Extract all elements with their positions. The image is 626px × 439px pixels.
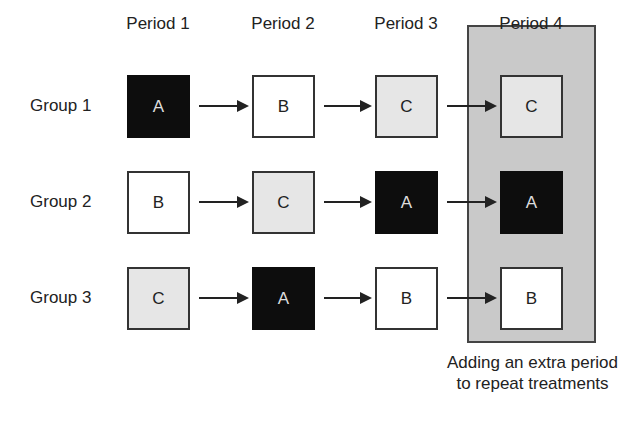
treatment-label: A <box>401 193 412 213</box>
treatment-box: C <box>375 75 438 138</box>
treatment-box: C <box>500 75 563 138</box>
group-label: Group 2 <box>30 192 91 212</box>
arrow-right-icon <box>447 292 497 304</box>
arrow-right-icon <box>324 196 372 208</box>
treatment-label: A <box>278 289 289 309</box>
period-header-2: Period 2 <box>233 14 333 34</box>
arrow-right-icon <box>447 100 497 112</box>
treatment-box: A <box>375 171 438 234</box>
treatment-label: C <box>525 97 537 117</box>
treatment-label: C <box>277 193 289 213</box>
treatment-label: B <box>526 289 537 309</box>
treatment-box: A <box>252 267 315 330</box>
arrow-right-icon <box>199 100 249 112</box>
treatment-box: C <box>252 171 315 234</box>
treatment-box: A <box>127 75 190 138</box>
arrow-right-icon <box>199 196 249 208</box>
treatment-box: B <box>500 267 563 330</box>
treatment-label: C <box>152 289 164 309</box>
treatment-box: B <box>375 267 438 330</box>
period-header-3: Period 3 <box>356 14 456 34</box>
period-header-4: Period 4 <box>481 14 581 34</box>
group-label: Group 1 <box>30 96 91 116</box>
treatment-label: B <box>278 97 289 117</box>
arrow-right-icon <box>199 292 249 304</box>
treatment-label: C <box>400 97 412 117</box>
treatment-box: B <box>127 171 190 234</box>
treatment-label: A <box>526 193 537 213</box>
arrow-right-icon <box>324 292 372 304</box>
period-header-1: Period 1 <box>108 14 208 34</box>
treatment-label: B <box>153 193 164 213</box>
treatment-label: B <box>401 289 412 309</box>
treatment-box: A <box>500 171 563 234</box>
treatment-box: C <box>127 267 190 330</box>
arrow-right-icon <box>447 196 497 208</box>
treatment-label: A <box>153 97 164 117</box>
group-label: Group 3 <box>30 288 91 308</box>
arrow-right-icon <box>324 100 372 112</box>
treatment-box: B <box>252 75 315 138</box>
panel-caption: Adding an extra period to repeat treatme… <box>440 352 625 394</box>
